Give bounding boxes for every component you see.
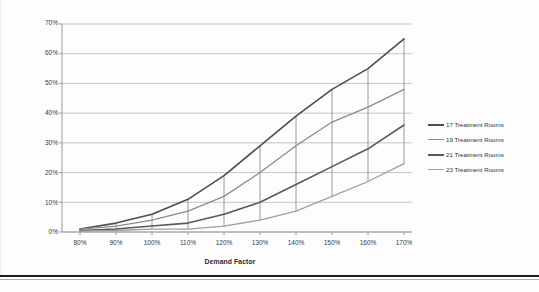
x-tick-label: 140% (279, 239, 313, 246)
y-tick-label: 10% (28, 199, 58, 206)
y-tick-label: 40% (28, 109, 58, 116)
y-tick-label: 70% (28, 19, 58, 26)
legend-swatch-icon (428, 154, 444, 156)
legend-swatch-icon (428, 139, 444, 140)
x-tick-label: 90% (99, 239, 133, 246)
page-bottom-rule (0, 275, 539, 277)
legend-swatch-icon (428, 124, 444, 126)
legend-item-label: 23 Treatment Rooms (446, 166, 504, 173)
series-line-1 (80, 39, 404, 229)
y-tick-label: 60% (28, 49, 58, 56)
legend-swatch-icon (428, 169, 444, 170)
series-line-4 (80, 164, 404, 231)
legend-item-label: 19 Treatment Rooms (446, 136, 504, 143)
legend-item-label: 21 Treatment Rooms (446, 151, 504, 158)
page-bottom-rule-shadow (0, 279, 539, 280)
x-tick-label: 110% (171, 239, 205, 246)
legend-item-19-treatment-rooms[interactable]: 19 Treatment Rooms (428, 132, 536, 147)
x-tick-label: 130% (243, 239, 277, 246)
x-tick-label: 100% (135, 239, 169, 246)
chart-figure: 70% 60% 50% 40% 30% 20% 10% 0% 80% 90% 1… (0, 0, 539, 292)
y-tick-label: 30% (28, 139, 58, 146)
legend-item-17-treatment-rooms[interactable]: 17 Treatment Rooms (428, 117, 536, 132)
y-tick-label: 0% (28, 228, 58, 235)
legend-item-21-treatment-rooms[interactable]: 21 Treatment Rooms (428, 147, 536, 162)
y-tick-label: 20% (28, 169, 58, 176)
legend-item-label: 17 Treatment Rooms (446, 121, 504, 128)
legend-item-23-treatment-rooms[interactable]: 23 Treatment Rooms (428, 162, 536, 177)
chart-legend: 17 Treatment Rooms 19 Treatment Rooms 21… (428, 117, 536, 177)
x-tick-label: 150% (315, 239, 349, 246)
x-axis-title: Demand Factor (0, 258, 460, 265)
x-tick-label: 120% (207, 239, 241, 246)
x-tick-label: 80% (63, 239, 97, 246)
y-tick-label: 50% (28, 79, 58, 86)
x-tick-label: 160% (351, 239, 385, 246)
series-line-3 (80, 125, 404, 230)
x-tick-label: 170% (387, 239, 421, 246)
